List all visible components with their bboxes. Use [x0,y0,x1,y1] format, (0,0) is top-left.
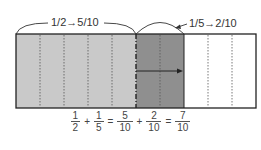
first-addend-arc [16,23,48,34]
numerator: 2 [149,110,159,121]
numerator: 5 [120,110,130,121]
denominator: 10 [117,122,132,133]
second-conversion-label: 1/5→2/10 [189,17,237,29]
fraction-term: 7 10 [175,110,190,133]
first-addend-arc-right [104,23,136,34]
numerator: 1 [94,110,104,121]
empty-segment [184,34,256,108]
denominator: 5 [94,122,104,133]
numerator: 7 [178,110,188,121]
plus-sign: + [83,116,91,127]
fraction-equation: 1 2 + 1 5 = 5 10 + 2 10 = 7 10 [0,110,261,133]
fraction-term: 1 2 [71,110,81,133]
fraction-term: 5 10 [117,110,132,133]
fraction-term: 1 5 [94,110,104,133]
denominator: 10 [146,122,161,133]
equals-sign: = [107,116,115,127]
pointer-arrow-icon [175,24,187,29]
plus-sign: + [136,116,144,127]
first-conversion-label: 1/2→5/10 [51,16,99,28]
fraction-term: 2 10 [146,110,161,133]
equals-sign: = [164,116,172,127]
denominator: 10 [175,122,190,133]
numerator: 1 [71,110,81,121]
denominator: 2 [71,122,81,133]
light-segment [16,34,136,108]
